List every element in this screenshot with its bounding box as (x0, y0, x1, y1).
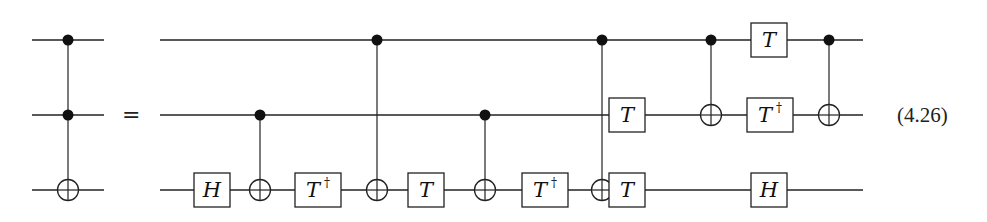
svg-text:T: T (762, 28, 778, 52)
svg-text:T: T (620, 103, 636, 127)
hadamard-gate: H (751, 173, 787, 207)
svg-text:H: H (202, 178, 222, 202)
t-gate: T (751, 23, 787, 57)
control-dot-icon (824, 35, 835, 46)
control-dot-icon (597, 35, 608, 46)
equation-number: (4.26) (897, 103, 948, 127)
control-dot-icon (706, 35, 717, 46)
cnot-target-icon (701, 105, 722, 126)
svg-text:T: T (758, 103, 774, 127)
cnot-gate (819, 35, 840, 126)
svg-text:T: T (620, 178, 636, 202)
svg-text:T: T (306, 178, 322, 202)
control-dot-icon (255, 110, 266, 121)
quantum-circuit-diagram: = HT†TT†TTTT†H (4.26) (0, 0, 987, 222)
cnot-gate (701, 35, 722, 126)
t-dagger-gate: T† (295, 173, 341, 207)
cnot-target-icon (250, 180, 271, 201)
hadamard-gate: H (194, 173, 230, 207)
cnot-target-icon (475, 180, 496, 201)
cnot-target-icon (819, 105, 840, 126)
svg-text:†: † (776, 101, 782, 115)
svg-text:†: † (324, 176, 330, 190)
cnot-target-icon (367, 180, 388, 201)
t-gate: T (609, 98, 645, 132)
control-dot-icon (63, 110, 74, 121)
control-dot-icon (63, 35, 74, 46)
cnot-gate (250, 110, 271, 201)
control-dot-icon (480, 110, 491, 121)
svg-text:T: T (419, 178, 435, 202)
t-dagger-gate: T† (747, 98, 793, 132)
svg-text:†: † (551, 176, 557, 190)
svg-text:T: T (533, 178, 549, 202)
t-dagger-gate: T† (522, 173, 568, 207)
toffoli-gate-lhs (32, 35, 104, 201)
svg-text:H: H (759, 178, 779, 202)
t-gate: T (408, 173, 444, 207)
t-gate: T (609, 173, 645, 207)
cnot-gate (367, 35, 388, 201)
equals-sign: = (122, 102, 140, 127)
cnot-gate (475, 110, 496, 201)
control-dot-icon (372, 35, 383, 46)
cnot-target-icon (58, 180, 79, 201)
decomposition-rhs: HT†TT†TTTT†H (160, 23, 863, 207)
